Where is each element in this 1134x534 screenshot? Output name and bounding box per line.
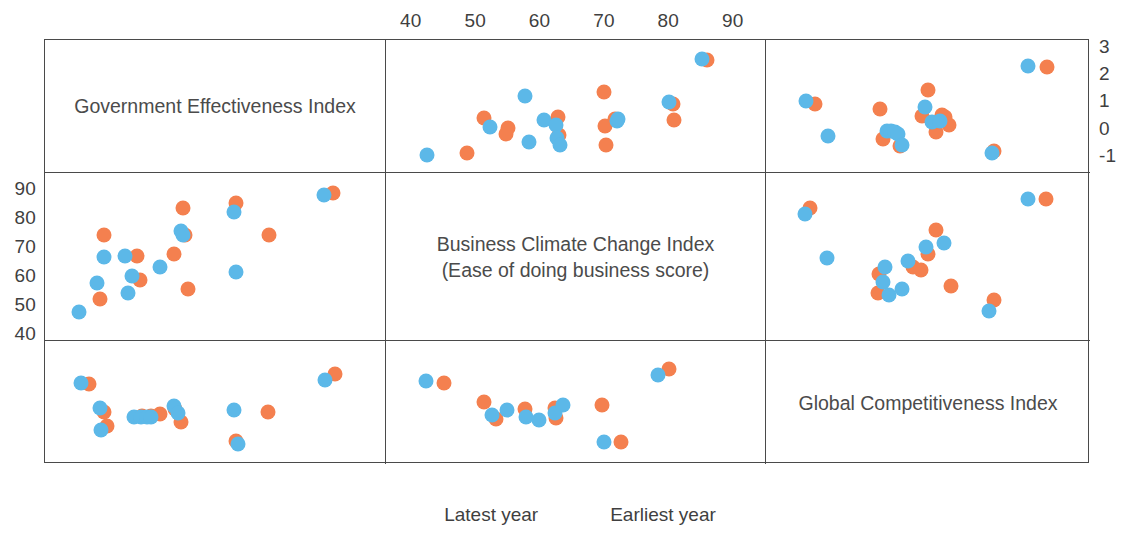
data-point-earliest: [117, 248, 132, 263]
legend-label-latest: Latest year: [444, 504, 538, 526]
left-tick-40: 40: [14, 323, 36, 345]
panel-r1c3: [766, 40, 1090, 173]
data-point-latest: [944, 279, 959, 294]
data-point-latest: [920, 83, 935, 98]
data-point-earliest: [121, 286, 136, 301]
data-point-earliest: [895, 281, 910, 296]
data-point-earliest: [981, 303, 996, 318]
data-point-latest: [261, 228, 276, 243]
panel-title-line1: Business Climate Change Index: [394, 230, 757, 256]
data-point-earliest: [937, 235, 952, 250]
data-point-earliest: [918, 239, 933, 254]
right-top-tick--1: -1: [1099, 145, 1116, 167]
data-point-latest: [180, 281, 195, 296]
top-tick-60: 60: [529, 10, 551, 32]
data-point-latest: [614, 435, 629, 450]
legend-swatch-latest-icon: [418, 507, 435, 524]
panel-title-r3c3: Global Competitiveness Index: [766, 389, 1090, 415]
data-point-earliest: [483, 119, 498, 134]
panel-title-r2c2: Business Climate Change Index(Ease of do…: [386, 230, 765, 283]
data-point-earliest: [522, 134, 537, 149]
data-point-latest: [597, 84, 612, 99]
panel-r2c1: [45, 173, 386, 341]
right-top-tick-3: 3: [1099, 36, 1110, 58]
plot-matrix: Government Effectiveness IndexBusiness C…: [44, 39, 1089, 463]
data-point-latest: [166, 247, 181, 262]
data-point-earliest: [517, 88, 532, 103]
data-point-earliest: [932, 114, 947, 129]
legend-label-earliest: Earliest year: [610, 504, 716, 526]
data-point-earliest: [610, 111, 625, 126]
top-tick-70: 70: [593, 10, 615, 32]
data-point-earliest: [97, 250, 112, 265]
legend: Latest year Earliest year: [0, 504, 1134, 526]
data-point-latest: [1038, 192, 1053, 207]
data-point-earliest: [144, 409, 159, 424]
top-tick-80: 80: [658, 10, 680, 32]
left-tick-70: 70: [14, 236, 36, 258]
data-point-earliest: [1021, 58, 1036, 73]
panel-r3c1: [45, 341, 386, 464]
data-point-earliest: [799, 94, 814, 109]
data-point-earliest: [74, 376, 89, 391]
panel-r3c3: Global Competitiveness Index: [766, 341, 1090, 464]
data-point-latest: [459, 145, 474, 160]
data-point-latest: [92, 292, 107, 307]
data-point-latest: [598, 137, 613, 152]
data-point-earliest: [556, 398, 571, 413]
legend-item-latest-year: Latest year: [418, 504, 538, 526]
data-point-earliest: [500, 403, 515, 418]
data-point-earliest: [821, 129, 836, 144]
panel-title-line1: Global Competitiveness Index: [774, 389, 1082, 415]
legend-swatch-earliest-icon: [584, 507, 601, 524]
left-tick-60: 60: [14, 265, 36, 287]
panel-r3c2: [386, 341, 766, 464]
data-point-earliest: [89, 276, 104, 291]
data-point-earliest: [694, 52, 709, 67]
data-point-earliest: [72, 305, 87, 320]
panel-title-line1: Government Effectiveness Index: [53, 93, 377, 119]
data-point-latest: [437, 375, 452, 390]
data-point-earliest: [820, 251, 835, 266]
left-tick-80: 80: [14, 207, 36, 229]
data-point-earliest: [661, 95, 676, 110]
top-tick-90: 90: [722, 10, 744, 32]
top-tick-50: 50: [464, 10, 486, 32]
data-point-earliest: [318, 372, 333, 387]
data-point-earliest: [552, 137, 567, 152]
data-point-earliest: [917, 99, 932, 114]
data-point-earliest: [229, 264, 244, 279]
data-point-latest: [130, 248, 145, 263]
data-point-latest: [175, 200, 190, 215]
data-point-earliest: [94, 423, 109, 438]
data-point-earliest: [596, 434, 611, 449]
data-point-earliest: [418, 373, 433, 388]
data-point-earliest: [485, 407, 500, 422]
data-point-earliest: [153, 260, 168, 275]
data-point-earliest: [170, 406, 185, 421]
data-point-earliest: [895, 137, 910, 152]
panel-title-line2: (Ease of doing business score): [394, 257, 757, 283]
panel-r1c2: [386, 40, 766, 173]
data-point-earliest: [175, 228, 190, 243]
data-point-earliest: [650, 368, 665, 383]
data-point-latest: [666, 113, 681, 128]
data-point-earliest: [985, 145, 1000, 160]
data-point-earliest: [797, 206, 812, 221]
data-point-earliest: [900, 254, 915, 269]
left-tick-50: 50: [14, 294, 36, 316]
panel-title-r1c1: Government Effectiveness Index: [45, 93, 385, 119]
data-point-earliest: [420, 148, 435, 163]
data-point-earliest: [227, 403, 242, 418]
data-point-earliest: [227, 205, 242, 220]
data-point-latest: [501, 121, 516, 136]
data-point-earliest: [1021, 192, 1036, 207]
panel-r1c1: Government Effectiveness Index: [45, 40, 386, 173]
data-point-earliest: [878, 260, 893, 275]
data-point-earliest: [230, 437, 245, 452]
panel-r2c3: [766, 173, 1090, 341]
right-top-tick-0: 0: [1099, 118, 1110, 140]
panel-r2c2: Business Climate Change Index(Ease of do…: [386, 173, 766, 341]
data-point-latest: [914, 263, 929, 278]
data-point-latest: [260, 405, 275, 420]
